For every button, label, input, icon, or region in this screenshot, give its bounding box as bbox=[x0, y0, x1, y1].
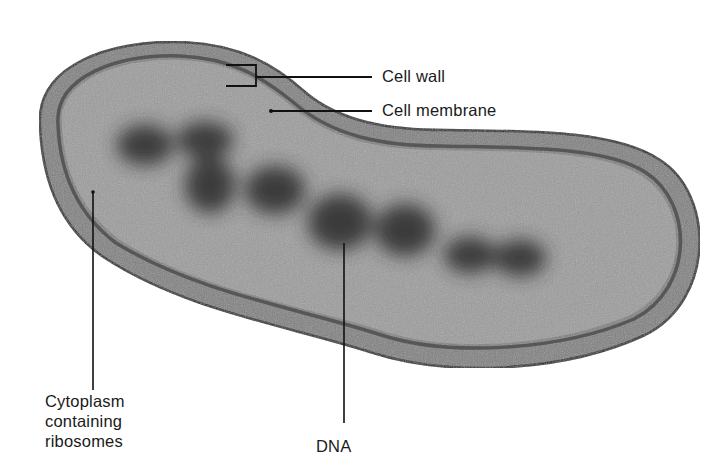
cytoplasm-shape bbox=[62, 60, 677, 344]
cell-membrane-label: Cell membrane bbox=[382, 100, 496, 120]
cell-wall-label: Cell wall bbox=[382, 66, 445, 86]
cytoplasm-label: Cytoplasm containing ribosomes bbox=[45, 391, 125, 451]
bacterium-diagram: Cell wall Cell membrane Cytoplasm contai… bbox=[0, 0, 727, 473]
dna-label: DNA bbox=[316, 436, 351, 456]
